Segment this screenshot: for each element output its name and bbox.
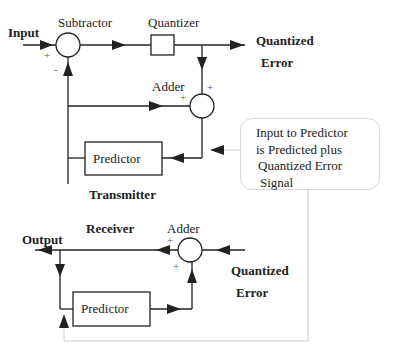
- subtractor-minus-sign: -: [54, 64, 58, 75]
- subtractor-label: Subtractor: [58, 16, 112, 29]
- arrow-icon: [230, 40, 244, 50]
- arrow-icon: [216, 245, 230, 255]
- arrow-icon: [210, 145, 224, 155]
- arrow-icon: [170, 153, 184, 163]
- quantizer-label: Quantizer: [148, 16, 199, 29]
- subtractor-plus-sign: +: [44, 50, 50, 61]
- callout-line3: Quantized Error: [256, 158, 348, 175]
- receiver-adder-plus-left: +: [167, 235, 173, 246]
- receiver-predictor-label: Predictor: [81, 302, 129, 315]
- arrow-icon: [197, 57, 207, 70]
- adder-plus-top: +: [207, 82, 213, 93]
- arrow-icon: [149, 101, 163, 111]
- transmitter-output-label-line1: Quantized: [256, 34, 314, 47]
- transmitter-section-label: Transmitter: [89, 188, 156, 201]
- arrow-icon: [187, 269, 197, 283]
- receiver-input-label-line2: Error: [236, 286, 268, 299]
- arrow-icon: [59, 314, 69, 328]
- quantizer-box: [151, 35, 174, 55]
- transmitter-output-label-line2: Error: [261, 56, 293, 69]
- output-label: Output: [22, 233, 62, 246]
- subtractor-circle: [56, 33, 80, 57]
- arrow-icon: [55, 264, 65, 277]
- callout-text: Input to Predictor is Predicted plus Qua…: [256, 125, 348, 191]
- input-label: Input: [8, 26, 39, 39]
- adder-plus-left: +: [180, 92, 186, 103]
- callout-line4: Signal: [256, 175, 348, 192]
- transmitter-predictor-label: Predictor: [93, 152, 141, 165]
- receiver-input-label-line1: Quantized: [231, 264, 289, 277]
- arrow-icon: [167, 304, 181, 314]
- arrow-icon: [156, 245, 170, 255]
- arrow-icon: [63, 62, 73, 76]
- transmitter-adder-circle: [190, 94, 214, 118]
- callout-line1: Input to Predictor: [256, 125, 348, 142]
- receiver-adder-plus-bottom: +: [173, 261, 179, 272]
- receiver-section-label: Receiver: [86, 222, 134, 235]
- callout-line2: is Predicted plus: [256, 142, 348, 159]
- receiver-adder-circle: [178, 238, 202, 262]
- arrow-icon: [112, 40, 126, 50]
